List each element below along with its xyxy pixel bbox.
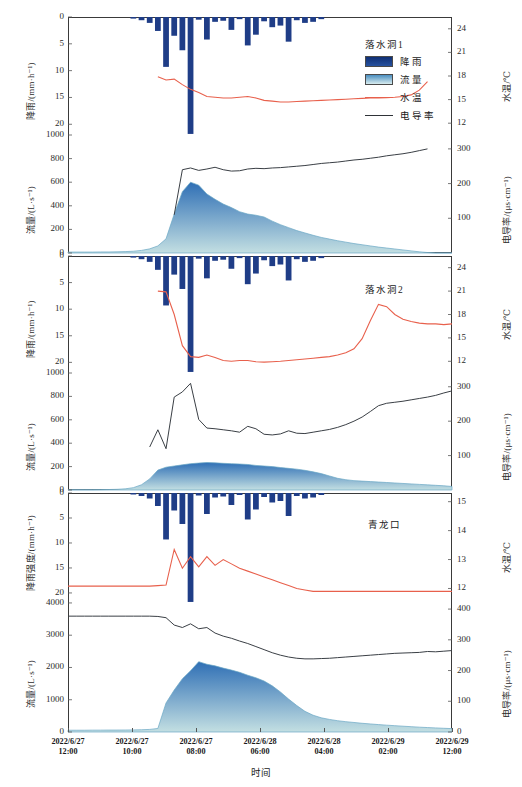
x-tick-label: 2022/6/2712:00: [35, 737, 101, 757]
temp-tick: 14: [457, 525, 466, 535]
cond-axis-label: 电导率/(μs·cm⁻¹): [500, 413, 513, 481]
temp-tick: 15: [457, 332, 466, 342]
flow-swatch: [365, 74, 393, 85]
flow-tick: 800: [28, 390, 64, 400]
cond-tick: 0: [457, 726, 462, 736]
x-tick-label: 2022/6/2902:00: [355, 737, 421, 757]
flow-tick: 1000: [28, 367, 64, 377]
temp-tick: 12: [457, 117, 466, 127]
legend-item[interactable]: 流量: [365, 71, 436, 87]
temp-tick: 24: [457, 262, 466, 272]
temp-tick: 21: [457, 285, 466, 295]
rain-axis-label: 降雨/(mm·h⁻¹): [24, 62, 37, 120]
rain-tick: 0: [28, 11, 64, 21]
flow-tick: 3000: [28, 629, 64, 639]
x-tick-date: 2022/6/28: [227, 737, 293, 747]
temp-axis-label: 水温/℃: [500, 71, 513, 102]
temp-tick: 12: [457, 355, 466, 365]
x-tick-mark: [260, 728, 261, 732]
flow-axis-label: 流量/(L·s⁻¹): [24, 660, 37, 708]
figure-root: 0510152002004006008001000121518212410020…: [0, 0, 522, 787]
temp-axis-label: 水温/℃: [500, 542, 513, 573]
x-tick-time: 02:00: [355, 747, 421, 757]
cond-tick: 300: [457, 381, 471, 391]
x-tick-time: 08:00: [163, 747, 229, 757]
x-tick-date: 2022/6/27: [163, 737, 229, 747]
cond-tick: 400: [457, 603, 471, 613]
legend-label: 降雨: [400, 54, 424, 68]
cond-tick: 100: [457, 450, 471, 460]
flow-axis-label: 流量/(L·s⁻¹): [24, 423, 37, 471]
x-tick-label: 2022/6/2804:00: [291, 737, 357, 757]
x-tick-mark: [132, 728, 133, 732]
x-tick-date: 2022/6/27: [35, 737, 101, 747]
cond-axis-label: 电导率/(μs·cm⁻¹): [500, 176, 513, 244]
cond-tick: 300: [457, 634, 471, 644]
temp-tick: 13: [457, 554, 466, 564]
rainfall-swatch: [365, 56, 393, 67]
legend-item[interactable]: 电导率: [365, 107, 436, 123]
temp-tick: 18: [457, 309, 466, 319]
temp-tick: 24: [457, 23, 466, 33]
legend-label: 流量: [400, 72, 424, 86]
x-tick-label: 2022/6/2708:00: [163, 737, 229, 757]
temp-axis-label: 水温/℃: [500, 309, 513, 340]
rain-tick: 0: [28, 250, 64, 260]
flow-tick: 1000: [28, 129, 64, 139]
rain-axis-label: 降雨强度/(mm·h⁻¹): [24, 515, 37, 591]
legend-label: 电导率: [400, 108, 436, 122]
x-tick-label: 2022/6/2806:00: [227, 737, 293, 757]
legend-item[interactable]: 降雨: [365, 53, 436, 69]
rain-tick: 5: [28, 277, 64, 287]
temp-tick: 15: [457, 94, 466, 104]
water-temp-swatch: [365, 97, 393, 98]
panel-title: 青龙口: [368, 517, 401, 531]
flow-axis-label: 流量/(L·s⁻¹): [24, 186, 37, 234]
x-tick-time: 04:00: [291, 747, 357, 757]
x-tick-time: 06:00: [227, 747, 293, 757]
x-tick-mark: [324, 728, 325, 732]
cond-tick: 300: [457, 143, 471, 153]
x-tick-date: 2022/6/27: [99, 737, 165, 747]
x-axis-title: 时间: [0, 765, 522, 779]
panel-title: 落水洞1: [365, 37, 404, 51]
legend-label: 水温: [400, 90, 424, 104]
cond-tick: 100: [457, 212, 471, 222]
rain-tick: 0: [28, 487, 64, 497]
flow-tick: 0: [28, 726, 64, 736]
temp-tick: 21: [457, 46, 466, 56]
x-tick-date: 2022/6/29: [419, 737, 485, 747]
cond-tick: 200: [457, 665, 471, 675]
x-tick-label: 2022/6/2912:00: [419, 737, 485, 757]
x-tick-date: 2022/6/29: [355, 737, 421, 747]
x-tick-mark: [196, 728, 197, 732]
rain-axis-label: 降雨/(mm·h⁻¹): [24, 301, 37, 359]
x-tick-mark: [452, 728, 453, 732]
cond-tick: 100: [457, 695, 471, 705]
temp-tick: 12: [457, 582, 466, 592]
flow-tick: 4000: [28, 597, 64, 607]
x-tick-mark: [388, 728, 389, 732]
x-tick-mark: [68, 728, 69, 732]
panel-title: 落水洞2: [365, 282, 404, 296]
x-tick-label: 2022/6/2710:00: [99, 737, 165, 757]
cond-axis-label: 电导率/(μs·cm⁻¹): [500, 650, 513, 718]
x-tick-time: 12:00: [419, 747, 485, 757]
x-tick-date: 2022/6/28: [291, 737, 357, 747]
conductivity-swatch: [365, 115, 393, 116]
cond-tick: 200: [457, 178, 471, 188]
x-tick-time: 12:00: [35, 747, 101, 757]
legend-item[interactable]: 水温: [365, 89, 436, 105]
flow-tick: 800: [28, 153, 64, 163]
flow-tick: 600: [28, 176, 64, 186]
rain-tick: 5: [28, 38, 64, 48]
temp-tick: 15: [457, 496, 466, 506]
temp-tick: 18: [457, 70, 466, 80]
cond-tick: 200: [457, 415, 471, 425]
legend: 降雨流量水温电导率: [365, 53, 436, 125]
x-tick-time: 10:00: [99, 747, 165, 757]
